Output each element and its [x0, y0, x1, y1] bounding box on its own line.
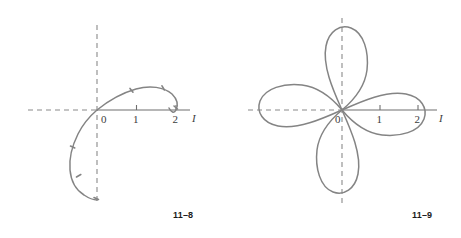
- axis-tick-label-1: 1: [133, 114, 139, 125]
- figure-caption-11-8: 11–8: [173, 210, 193, 220]
- axis-name-label-I: I: [192, 113, 196, 124]
- figure-caption-11-9: 11–9: [412, 210, 432, 220]
- curve-lower-arc: [70, 110, 97, 200]
- axis-tick-label-2: 2: [415, 114, 421, 125]
- petal-right: [342, 93, 425, 135]
- figure-board: 0 1 2 I 11–8: [0, 0, 461, 238]
- figure-11-9-plot: [230, 0, 461, 238]
- curve-marker-4: [77, 175, 81, 178]
- figure-11-8-panel: 0 1 2 I 11–8: [0, 0, 230, 238]
- axis-tick-label-2: 2: [173, 114, 179, 125]
- petal-left: [259, 85, 342, 127]
- axis-name-label-I: I: [439, 113, 443, 124]
- curve-marker-3: [71, 146, 75, 148]
- petal-up: [325, 27, 367, 110]
- axis-tick-label-0: 0: [101, 114, 107, 125]
- axis-tick-label-0: 0: [335, 114, 341, 125]
- curve-upper-arc: [97, 87, 177, 112]
- figure-11-9-panel: 0 1 2 I 11–9: [230, 0, 461, 238]
- axis-tick-label-1: 1: [377, 114, 383, 125]
